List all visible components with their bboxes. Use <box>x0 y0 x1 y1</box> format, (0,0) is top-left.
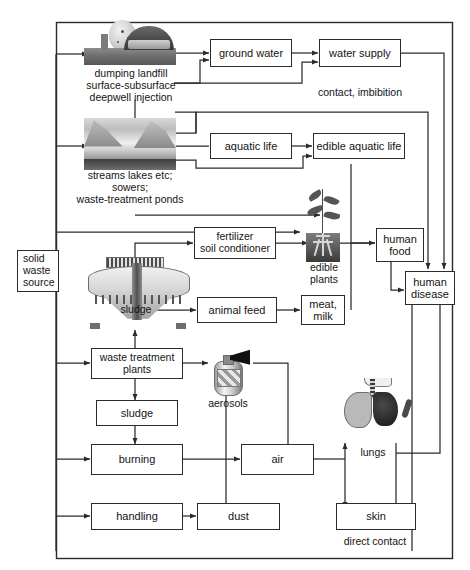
direct-contact-label: direct contact <box>320 536 430 548</box>
node-edible-aquatic-life[interactable]: edible aquatic life <box>313 133 405 159</box>
meat-milk-line-2: milk <box>311 310 335 322</box>
streams-lakes-illustration <box>84 118 176 170</box>
streams-caption-line-3: waste-treatment ponds <box>54 194 206 206</box>
annotation-contact-imbibition: contact, imbibition <box>318 87 450 99</box>
dust-label: dust <box>226 510 251 522</box>
diagram-canvas: solid waste source ground water water su… <box>0 0 470 570</box>
wtp-line-1: waste treatment <box>98 352 177 364</box>
node-skin[interactable]: skin <box>336 503 416 530</box>
landfill-illustration <box>84 20 176 66</box>
handling-label: handling <box>114 510 160 522</box>
node-handling[interactable]: handling <box>91 503 183 530</box>
node-air[interactable]: air <box>241 444 314 475</box>
caption-edible-plants: edible plants <box>298 262 350 286</box>
aerosols-label: aerosols <box>198 398 258 410</box>
animal-feed-label: animal feed <box>207 304 268 316</box>
settling-tank-illustration <box>84 255 192 331</box>
streams-caption-line-1: streams lakes etc; <box>54 170 206 182</box>
node-human-disease[interactable]: human disease <box>405 271 455 305</box>
edible-plants-line-2: plants <box>298 274 350 286</box>
caption-direct-contact: direct contact <box>320 536 430 548</box>
landfill-caption-line-2: surface-subsurface <box>60 80 202 92</box>
node-meat-milk[interactable]: meat, milk <box>301 295 345 325</box>
burning-label: burning <box>117 453 158 465</box>
human-food-line-2: food <box>387 245 412 257</box>
human-food-line-1: human <box>381 233 419 245</box>
node-water-supply[interactable]: water supply <box>319 39 401 67</box>
skin-label: skin <box>364 510 388 522</box>
meat-milk-line-1: meat, <box>307 298 339 310</box>
landfill-caption-line-3: deepwell injection <box>60 92 202 104</box>
human-disease-line-2: disease <box>409 288 451 300</box>
caption-lungs: lungs <box>350 447 396 459</box>
sludge-box-label: sludge <box>119 407 155 419</box>
caption-sludge: sludge <box>106 304 166 316</box>
node-sludge-box[interactable]: sludge <box>96 400 178 426</box>
air-label: air <box>269 453 285 465</box>
edible-aquatic-life-label: edible aquatic life <box>314 140 403 152</box>
node-dust[interactable]: dust <box>197 503 280 530</box>
edible-plant-illustration <box>306 186 340 262</box>
water-supply-label: water supply <box>327 47 393 59</box>
node-solid-waste-source[interactable]: solid waste source <box>17 250 59 292</box>
caption-landfill: dumping landfill surface-subsurface deep… <box>60 68 202 103</box>
contact-imbibition-label: contact, imbibition <box>318 87 450 99</box>
node-aquatic-life[interactable]: aquatic life <box>210 133 292 159</box>
lungs-torso-illustration <box>340 378 412 440</box>
caption-aerosols: aerosols <box>198 398 258 410</box>
ground-water-label: ground water <box>217 47 285 59</box>
wtp-line-2: plants <box>121 364 153 376</box>
node-burning[interactable]: burning <box>91 444 183 475</box>
aquatic-life-label: aquatic life <box>223 140 280 152</box>
fertilizer-line-2: soil conditioner <box>198 243 272 255</box>
landfill-caption-line-1: dumping landfill <box>60 68 202 80</box>
node-fertilizer-soil-conditioner[interactable]: fertilizer soil conditioner <box>194 227 276 259</box>
streams-caption-line-2: sowers; <box>54 182 206 194</box>
node-ground-water[interactable]: ground water <box>210 39 292 67</box>
lungs-label: lungs <box>350 447 396 459</box>
aerosol-can-illustration <box>206 349 250 397</box>
node-waste-treatment-plants[interactable]: waste treatment plants <box>91 348 183 379</box>
node-animal-feed[interactable]: animal feed <box>197 297 277 323</box>
edible-plants-line-1: edible <box>298 262 350 274</box>
solid-waste-source-line-3: source <box>21 277 57 289</box>
sludge-caption-label: sludge <box>106 304 166 316</box>
human-disease-line-1: human <box>411 276 449 288</box>
node-human-food[interactable]: human food <box>376 228 424 262</box>
caption-streams: streams lakes etc; sowers; waste-treatme… <box>54 170 206 205</box>
